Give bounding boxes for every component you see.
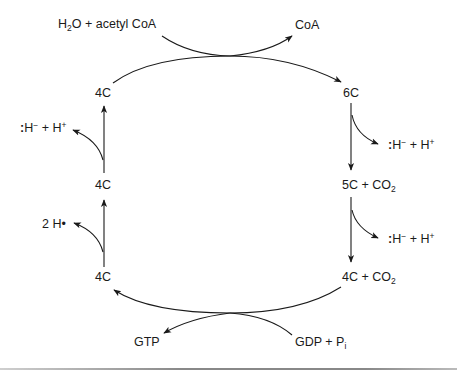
- node-4c-bottom-left: 4C: [95, 270, 111, 284]
- node-4c-top-left: 4C: [95, 86, 111, 100]
- output-gtp: GTP: [134, 335, 160, 349]
- input-water-acetyl-coa: H2O + acetyl CoA: [58, 17, 156, 31]
- arrow-4c-to-6c: [113, 56, 341, 83]
- arrow-hydride-1: [352, 115, 378, 144]
- arrow-gdp-in: [230, 313, 292, 335]
- output-hydride-left: :H− + H+: [20, 121, 66, 135]
- output-two-h-radical: 2 H•: [42, 217, 66, 231]
- node-4c-co2: 4C + CO2: [342, 270, 396, 284]
- input-gdp-pi: GDP + Pi: [295, 335, 346, 349]
- arrow-hydride-3: [73, 130, 103, 160]
- output-hydride-right-1: :H− + H+: [388, 138, 434, 152]
- arrow-coa-out: [230, 36, 292, 56]
- arrow-bottom: [114, 287, 341, 313]
- node-5c-co2: 5C + CO2: [342, 178, 396, 192]
- arrow-gtp-out: [164, 313, 230, 333]
- node-6c: 6C: [343, 86, 359, 100]
- arrow-acetyl-in: [162, 36, 230, 56]
- bottom-divider: [0, 368, 457, 370]
- output-hydride-right-2: :H− + H+: [388, 232, 434, 246]
- output-coa: CoA: [295, 18, 319, 32]
- arrow-two-h: [74, 223, 103, 252]
- node-4c-middle-left: 4C: [95, 178, 111, 192]
- arrow-hydride-2: [352, 210, 378, 238]
